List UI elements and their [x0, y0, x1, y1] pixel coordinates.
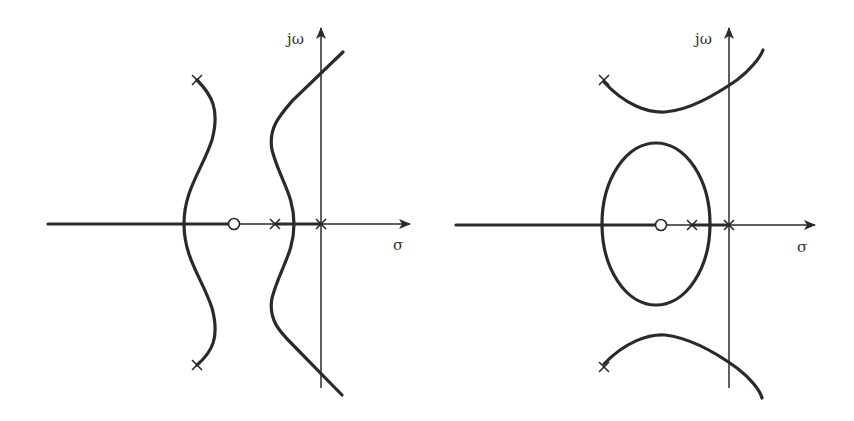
root-locus-figure: jω σ jω σ — [0, 0, 854, 421]
jw-axis-label: jω — [285, 30, 304, 48]
pole-lower — [192, 360, 202, 370]
zero-real — [229, 219, 240, 230]
pole-upper — [192, 75, 202, 85]
root-locus-svg: jω σ jω σ — [0, 0, 854, 421]
sigma-axis-label: σ — [797, 238, 807, 256]
right-root-locus: jω σ — [456, 28, 815, 398]
locus-branch-upper — [604, 50, 763, 112]
jw-axis-label: jω — [693, 30, 712, 48]
zero-real — [656, 220, 667, 231]
sigma-axis-label: σ — [393, 236, 403, 254]
locus-branch-lower — [604, 335, 762, 398]
left-root-locus: jω σ — [48, 28, 410, 395]
